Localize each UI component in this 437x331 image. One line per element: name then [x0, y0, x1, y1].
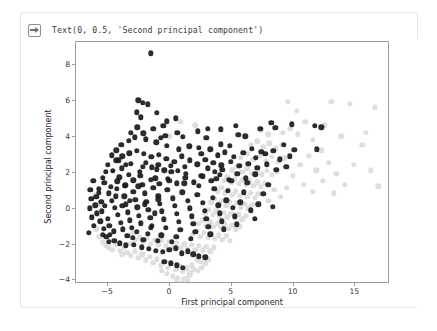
- scatter-point: [277, 157, 282, 162]
- scatter-point: [179, 154, 184, 159]
- scatter-point: [87, 206, 92, 211]
- scatter-point: [233, 123, 238, 128]
- scatter-point: [180, 190, 185, 195]
- scatter-point: [148, 50, 153, 55]
- scatter-point: [310, 137, 315, 142]
- scatter-point: [136, 184, 141, 189]
- scatter-point: [289, 122, 294, 127]
- scatter-point: [264, 162, 269, 167]
- scatter-point: [183, 171, 188, 176]
- scatter-point: [107, 223, 112, 228]
- scatter-point: [134, 205, 139, 210]
- scatter-point: [211, 160, 216, 165]
- scatter-point: [243, 213, 248, 218]
- scatter-point: [298, 162, 303, 167]
- output-arrow-icon[interactable]: [28, 24, 41, 37]
- scatter-point: [132, 135, 137, 140]
- scatter-point: [89, 196, 94, 201]
- scatter-point: [138, 115, 143, 120]
- scatter-point: [139, 245, 144, 250]
- scatter-point: [152, 176, 157, 181]
- scatter-point: [154, 110, 159, 115]
- scatter-point: [162, 259, 167, 264]
- scatter-point: [281, 142, 286, 147]
- scatter-point: [228, 159, 233, 164]
- output-repr-text: Text(0, 0.5, 'Second principal component…: [52, 25, 263, 35]
- scatter-point: [266, 132, 271, 137]
- scatter-point: [107, 232, 112, 237]
- scatter-point: [221, 227, 226, 232]
- scatter-point: [123, 183, 128, 188]
- scatter-point: [196, 183, 201, 188]
- scatter-point: [227, 238, 232, 243]
- scatter-point: [334, 171, 339, 176]
- scatter-point: [267, 141, 272, 146]
- scatter-point: [176, 219, 181, 224]
- scatter-point: [160, 123, 165, 128]
- scatter-point: [245, 180, 250, 185]
- scatter-point: [127, 198, 132, 203]
- scatter-point: [180, 134, 185, 139]
- scatter-point: [273, 125, 278, 130]
- scatter-point: [157, 201, 162, 206]
- scatter-point: [261, 191, 266, 196]
- scatter-point: [88, 187, 93, 192]
- y-axis-label: Second principal component: [44, 97, 53, 237]
- scatter-point: [116, 158, 121, 163]
- scatter-point: [110, 168, 115, 173]
- scatter-point: [214, 176, 219, 181]
- scatter-point: [338, 133, 343, 138]
- scatter-point: [159, 209, 164, 214]
- scatter-point: [126, 150, 131, 155]
- scatter-point: [134, 124, 139, 129]
- scatter-point: [363, 130, 368, 135]
- scatter-point: [141, 131, 146, 136]
- scatter-point: [211, 245, 216, 250]
- scatter-point: [99, 209, 104, 214]
- scatter-point: [105, 162, 110, 167]
- scatter-point: [181, 181, 186, 186]
- scatter-point: [249, 146, 254, 151]
- scatter-point: [101, 226, 106, 231]
- scatter-point: [376, 184, 381, 189]
- scatter-point: [294, 108, 299, 113]
- scatter-point: [182, 164, 187, 169]
- scatter-point: [240, 169, 245, 174]
- scatter-point: [156, 162, 161, 167]
- scatter-point: [272, 187, 277, 192]
- scatter-point: [236, 163, 241, 168]
- scatter-point: [291, 147, 296, 152]
- scatter-point: [113, 193, 118, 198]
- scatter-point: [126, 138, 131, 143]
- scatter-point: [215, 203, 220, 208]
- scatter-point: [141, 151, 146, 156]
- scatter-point: [284, 185, 289, 190]
- scatter-point: [123, 243, 128, 248]
- scatter-point: [347, 101, 352, 106]
- scatter-point: [106, 191, 111, 196]
- x-tick-label: 0: [149, 287, 189, 296]
- scatter-point: [269, 172, 274, 177]
- scatter-point: [114, 186, 119, 191]
- scatter-point: [246, 161, 251, 166]
- scatter-point: [151, 185, 156, 190]
- scatter-point: [220, 167, 225, 172]
- scatter-point: [163, 225, 168, 230]
- scatter-point: [176, 146, 181, 151]
- scatter-point: [164, 271, 169, 276]
- scatter-point: [254, 139, 259, 144]
- scatter-point: [156, 152, 161, 157]
- scatter-point: [288, 126, 293, 131]
- scatter-plot-axes[interactable]: [75, 41, 389, 283]
- scatter-point: [159, 233, 164, 238]
- y-tick-mark: [72, 208, 75, 209]
- scatter-point: [259, 172, 264, 177]
- scatter-point: [152, 210, 157, 215]
- scatter-point: [280, 130, 285, 135]
- scatter-point: [115, 212, 120, 217]
- scatter-point: [266, 198, 271, 203]
- scatter-point: [143, 160, 148, 165]
- scatter-point: [185, 279, 190, 283]
- scatter-point: [105, 216, 110, 221]
- scatter-point: [310, 189, 315, 194]
